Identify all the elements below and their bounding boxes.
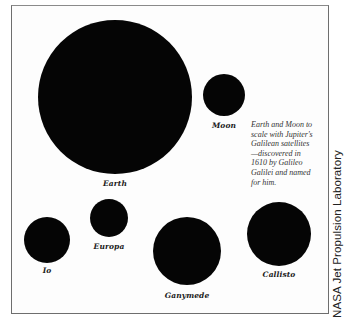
moon-label: Moon (212, 121, 236, 130)
europa-label: Europa (94, 242, 125, 251)
earth-label: Earth (103, 179, 127, 188)
io-label: Io (43, 266, 52, 275)
caption-line: —discovered in (251, 149, 321, 159)
caption-line: Galilean satellites (251, 139, 321, 149)
callisto-circle (247, 202, 311, 266)
caption-line: scale with Jupiter's (251, 130, 321, 140)
ganymede-circle (153, 217, 221, 285)
caption-line: 1610 by Galileo (251, 158, 321, 168)
caption-line: Galilei and named (251, 168, 321, 178)
caption: Earth and Moon to scale with Jupiter's G… (251, 120, 321, 187)
earth-circle (38, 20, 192, 174)
io-circle (24, 217, 70, 263)
ganymede-label: Ganymede (165, 291, 210, 300)
image-credit: NASA Jet Propulsion Laboratory (331, 150, 343, 318)
europa-circle (90, 199, 128, 237)
caption-line: Earth and Moon to (251, 120, 321, 130)
caption-line: for him. (251, 178, 321, 188)
callisto-label: Callisto (263, 270, 296, 279)
moon-circle (203, 74, 245, 116)
